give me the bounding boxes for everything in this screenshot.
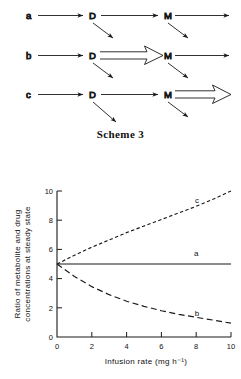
y-tick-label: 2 [49,304,53,313]
curve-label-c: c [195,196,199,205]
curve-label-b: b [195,309,200,318]
row-b-start-label: b [26,50,31,61]
curve-b [57,264,231,323]
chart-labels: acbInfusion rate (mg h⁻¹)Ratio of metabo… [13,196,200,366]
row-c-start-label: c [26,89,31,100]
scheme-caption: Scheme 3 [0,128,241,140]
scheme-row-b: b D M [26,46,229,78]
chart-curves [57,191,231,323]
x-tick-label: 0 [55,342,59,351]
chart-ticks: 02468100246810 [45,187,236,351]
y-tick-label: 0 [49,333,53,342]
scheme-row-c: c D M [26,85,231,122]
y-axis-label-line2: concentrations at steady state [23,206,32,322]
y-tick-label: 10 [45,187,53,196]
x-tick-label: 8 [194,342,198,351]
row-c-bold-arrow [175,85,231,104]
x-axis-label: Infusion rate (mg h⁻¹) [105,357,188,366]
curve-label-a: a [194,249,199,258]
row-a-start-label: a [26,10,32,21]
row-b-node-d: D [89,50,96,61]
x-tick-label: 4 [125,342,129,351]
chart: 02468100246810 acbInfusion rate (mg h⁻¹)… [0,150,241,379]
row-c-node-m: M [164,89,172,100]
row-c-node-d: D [89,89,96,100]
row-a-node-d: D [89,10,96,21]
curve-c [57,191,231,264]
y-tick-label: 6 [49,245,53,254]
row-a-node-m: M [164,10,172,21]
y-tick-label: 4 [49,274,53,283]
y-axis-label-line1: Ratio of metabolite and drug [13,210,22,319]
x-tick-label: 6 [159,342,163,351]
scheme-row-a: a D M [26,10,229,38]
row-b-node-m: M [164,50,172,61]
y-tick-label: 8 [49,216,53,225]
row-b-bold-arrow [100,46,163,65]
x-tick-label: 2 [90,342,94,351]
x-tick-label: 10 [227,342,235,351]
